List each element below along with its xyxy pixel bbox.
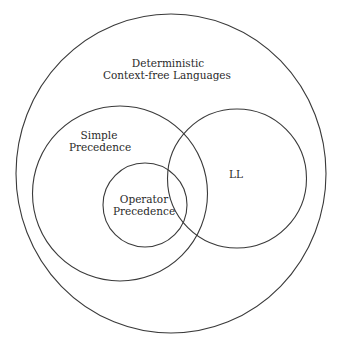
simple-precedence-label-line2: Precedence (69, 141, 131, 153)
operator-precedence-label-line1: Operator (120, 193, 169, 205)
dcfl-label-line1: Deterministic (132, 57, 204, 69)
simple-precedence-label-line1: Simple (81, 129, 118, 141)
dcfl-label-line2: Context-free Languages (103, 69, 231, 81)
ll-label: LL (229, 168, 243, 180)
operator-precedence-label-line2: Precedence (113, 205, 175, 217)
venn-diagram: Deterministic Context-free Languages Sim… (0, 0, 337, 346)
